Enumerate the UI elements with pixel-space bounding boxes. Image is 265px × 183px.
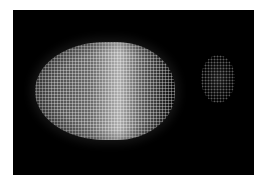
embryo-edge-fade <box>35 42 175 140</box>
faint-nuclei-cluster <box>201 55 235 103</box>
embryo-nuclei-cluster <box>35 42 175 140</box>
microscopy-image <box>13 10 254 175</box>
